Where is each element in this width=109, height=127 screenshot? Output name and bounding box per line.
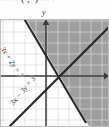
plot-area: 3x + 2y = 3 3x − 3y = 3 — [0, 19, 109, 127]
graph-figure: ··· ··· (·, ·) ··· · y — [0, 0, 109, 127]
y-axis-label: y — [42, 8, 46, 17]
cropped-header-text: ··· ··· (·, ·) ··· · — [0, 0, 55, 4]
cropped-header-text-strip: ··· ··· (·, ·) ··· · — [0, 0, 109, 9]
